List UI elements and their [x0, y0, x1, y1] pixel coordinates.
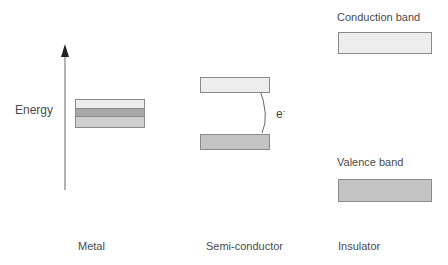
electron-excitation-arrow — [259, 87, 265, 133]
energy-axis-arrowhead-icon — [61, 44, 69, 57]
insulator-valence-band — [338, 179, 432, 202]
semiconductor-valence-band — [200, 134, 270, 150]
column-label-insulator: Insulator — [338, 240, 380, 252]
electron-label: e- — [276, 106, 285, 121]
column-label-metal: Metal — [78, 240, 105, 252]
energy-axis-label: Energy — [15, 103, 53, 117]
valence-band-label: Valence band — [337, 156, 403, 168]
electron-symbol: e — [276, 107, 283, 121]
semiconductor-conduction-band — [200, 77, 270, 93]
metal-lower-band — [75, 116, 145, 128]
conduction-band-label: Conduction band — [337, 11, 420, 23]
column-label-semiconductor: Semi-conductor — [206, 240, 283, 252]
insulator-conduction-band — [338, 32, 432, 54]
electron-charge: - — [283, 106, 286, 115]
